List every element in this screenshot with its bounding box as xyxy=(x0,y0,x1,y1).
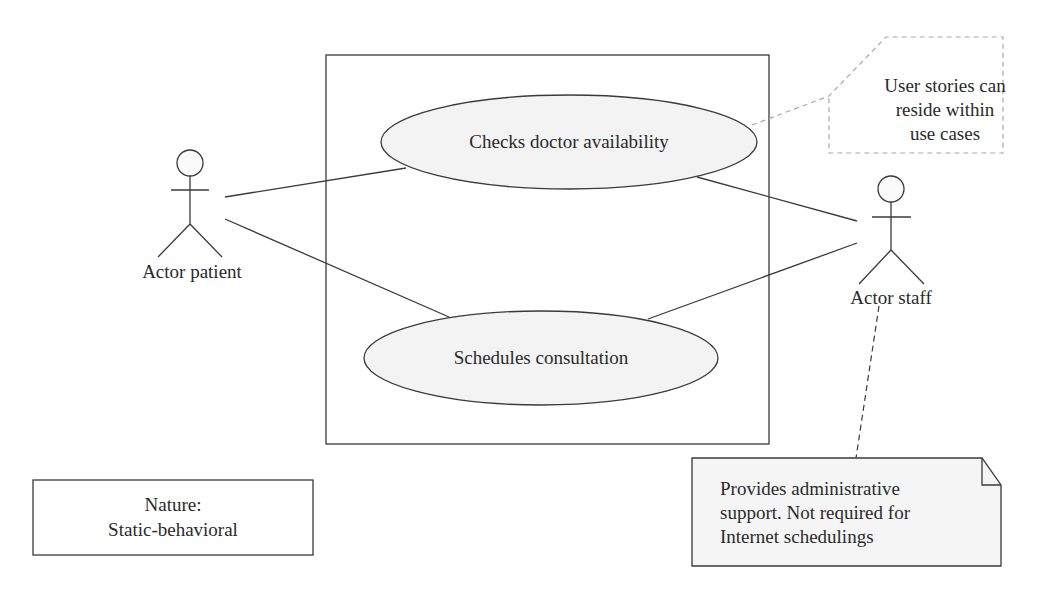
callout-line-3: use cases xyxy=(860,122,1030,146)
nature-line-2: Static-behavioral xyxy=(33,517,313,542)
association-staff-checks xyxy=(697,177,857,221)
association-patient-checks xyxy=(225,168,406,197)
actor-patient-icon[interactable] xyxy=(158,150,222,257)
nature-line-1: Nature: xyxy=(33,492,313,517)
use-case-label-schedules: Schedules consultation xyxy=(454,348,629,367)
actor-label-staff: Actor staff xyxy=(850,288,931,307)
callout-line-1: User stories can xyxy=(860,74,1030,98)
user-stories-callout-text: User stories can reside within use cases xyxy=(860,74,1030,146)
note-connector-dashed xyxy=(856,306,879,458)
callout-line-2: reside within xyxy=(860,98,1030,122)
note-line-3: Internet schedulings xyxy=(720,525,990,549)
note-line-1: Provides administrative xyxy=(720,477,990,501)
association-staff-schedules xyxy=(648,243,857,319)
admin-support-note-text: Provides administrative support. Not req… xyxy=(720,477,990,549)
nature-box-text: Nature: Static-behavioral xyxy=(33,492,313,542)
actor-staff-icon[interactable] xyxy=(859,176,924,284)
note-line-2: support. Not required for xyxy=(720,501,990,525)
use-case-label-checks: Checks doctor availability xyxy=(469,132,668,151)
actor-label-patient: Actor patient xyxy=(142,262,242,281)
association-patient-schedules xyxy=(225,219,449,317)
